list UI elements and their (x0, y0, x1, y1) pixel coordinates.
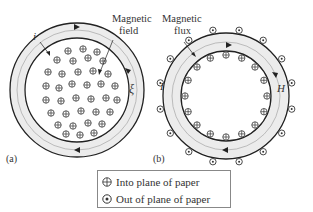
circle-plus-icon (102, 177, 112, 187)
legend-item-out: Out of plane of paper (102, 190, 210, 207)
legend-label-into: Into plane of paper (116, 176, 199, 188)
h-label: H (276, 82, 286, 94)
panel-label-a: (a) (6, 153, 17, 165)
legend-label-out: Out of plane of paper (116, 193, 210, 205)
flux-label-line2: flux (174, 25, 192, 36)
flux-label-line1: Magnetic (162, 13, 202, 24)
legend: Into plane of paper Out of plane of pape… (97, 170, 231, 208)
diagram-a: i Magnetic field ξ (a) (6, 13, 152, 165)
emf-label: ξ (129, 82, 135, 96)
diagram-a-inner-ring (25, 38, 129, 142)
panel-label-b: (b) (153, 153, 165, 165)
current-label-a: i (33, 30, 36, 42)
legend-item-into: Into plane of paper (102, 173, 199, 190)
field-label-line2: field (119, 25, 139, 36)
diagram-b: Magnetic flux I H (b) (153, 13, 295, 165)
field-label-line1: Magnetic (112, 13, 152, 24)
circle-dot-icon (102, 194, 112, 204)
